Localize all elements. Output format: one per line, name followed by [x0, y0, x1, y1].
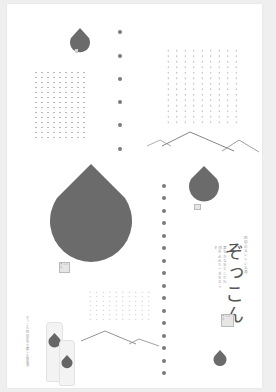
water-drop-small-bottom-icon: [213, 350, 227, 367]
mountain-line-upper: [147, 126, 262, 154]
dot-grid-top-left: [33, 70, 85, 138]
stamp-large-drop: ぞっこん: [59, 262, 70, 273]
dot-column-middle: [162, 184, 168, 389]
left-vertical-text: ぞっこん 四国の水で醸した純米酒: [26, 316, 30, 382]
bottle-small: [59, 340, 75, 386]
sake-bottles-image: [38, 316, 78, 386]
dot-grid-top-right: [164, 48, 238, 124]
stamp-headline: ぞっこん: [221, 314, 234, 327]
poster: ぞっこん 四国のおいしいお酒 清らかな水とこだわり 心を込めた一本をどうぞ ぞっ…: [7, 4, 262, 388]
bottle-label-drop-icon: [61, 355, 73, 370]
water-drop-medium-icon: [188, 166, 220, 204]
water-drop-large-icon: [47, 164, 135, 272]
stamp-medium-drop: [194, 204, 201, 210]
water-drop-small-top-icon: [69, 28, 91, 54]
dot-grid-bottom: [87, 290, 151, 322]
dot-column-top: [118, 30, 124, 160]
body-text-vertical-2: 心を込めた一本をどうぞ: [213, 246, 221, 290]
mountain-line-lower: [81, 329, 161, 347]
